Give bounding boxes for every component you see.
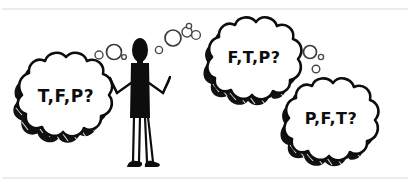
trail-circle-b <box>165 30 181 46</box>
trail-circle-mid-left <box>95 51 103 59</box>
bubble-bottom-right-text: P,F,T? <box>305 109 358 128</box>
cartoon-illustration: T,F,P? <box>0 0 410 189</box>
trail-circle-right-mid <box>318 54 323 59</box>
torso <box>130 63 150 118</box>
trail-circle-e <box>186 23 191 28</box>
trail-circle-right-large <box>304 46 317 59</box>
bubble-left-text: T,F,P? <box>38 86 94 106</box>
trail-circle-right-small <box>312 65 320 73</box>
trail-circle-a <box>155 46 162 53</box>
trail-circle-small-left <box>122 55 127 60</box>
left-leg <box>133 117 140 162</box>
trail-circle-d <box>192 31 201 40</box>
trail-circle-large-left <box>107 45 122 60</box>
head <box>132 38 148 62</box>
bubble-top-right-text: F,T,P? <box>227 48 280 67</box>
